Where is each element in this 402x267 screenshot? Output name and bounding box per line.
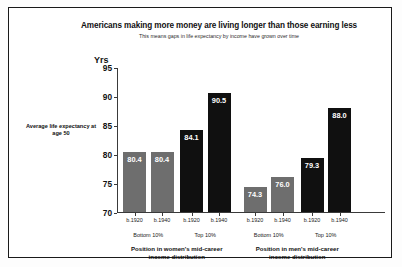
x-tick-mark	[219, 213, 220, 216]
subgroup-label: Bottom 10%	[254, 232, 284, 238]
y-tick-label: 80	[103, 150, 112, 160]
subgroup-label: Top 10%	[315, 232, 336, 238]
x-tick-label: b.1920	[126, 217, 143, 223]
group-axis-title: Position in men's mid-careerincome distr…	[256, 245, 339, 260]
chart-frame: Americans making more money are living l…	[8, 7, 392, 258]
plot-area: 707580859095 80.4b.192080.4b.194084.1b.1…	[117, 68, 385, 213]
x-tick-label: b.1920	[183, 217, 200, 223]
x-tick-mark	[312, 213, 313, 216]
x-tick-mark	[192, 213, 193, 216]
y-tick-label: 95	[103, 63, 112, 73]
bar: 80.4	[151, 152, 174, 212]
bar-value-label: 76.0	[271, 180, 294, 189]
bar-value-label: 84.1	[180, 133, 203, 142]
bar-value-label: 79.3	[301, 161, 324, 170]
x-tick-label: b.1940	[154, 217, 171, 223]
y-tick-mark	[114, 68, 118, 69]
bar: 90.5	[208, 93, 231, 212]
bar: 84.1	[180, 130, 203, 212]
bar-value-label: 88.0	[328, 111, 351, 120]
x-tick-mark	[162, 213, 163, 216]
x-tick-label: b.1920	[304, 217, 321, 223]
bar-value-label: 90.5	[208, 96, 231, 105]
y-tick-label: 70	[103, 208, 112, 218]
chart-figure: Americans making more money are living l…	[0, 0, 402, 267]
x-tick-label: b.1940	[211, 217, 228, 223]
side-annotation: Average life expectancy at age 50	[25, 123, 97, 138]
subgroup-label: Bottom 10%	[133, 232, 163, 238]
y-tick-mark	[114, 155, 118, 156]
bar: 79.3	[301, 158, 324, 212]
bar: 76.0	[271, 177, 294, 212]
x-tick-mark	[283, 213, 284, 216]
y-tick-mark	[114, 97, 118, 98]
x-tick-mark	[340, 213, 341, 216]
chart-subtitle: This means gaps in life expectancy by in…	[69, 33, 369, 40]
x-tick-mark	[255, 213, 256, 216]
y-tick-mark	[114, 213, 118, 214]
x-tick-label: b.1920	[247, 217, 264, 223]
y-axis-line	[117, 68, 118, 213]
y-tick-mark	[114, 126, 118, 127]
y-tick-mark	[114, 184, 118, 185]
y-tick-label: 75	[103, 179, 112, 189]
x-tick-mark	[135, 213, 136, 216]
chart-title: Americans making more money are living l…	[69, 21, 369, 31]
y-tick-label: 85	[103, 121, 112, 131]
subgroup-label: Top 10%	[195, 232, 216, 238]
bar: 80.4	[123, 152, 146, 212]
group-axis-title: Position in women's mid-careerincome dis…	[131, 245, 223, 260]
x-tick-label: b.1940	[331, 217, 348, 223]
bar-value-label: 74.3	[244, 190, 267, 199]
bar: 88.0	[328, 108, 351, 212]
y-tick-label: 90	[103, 92, 112, 102]
x-tick-label: b.1940	[274, 217, 291, 223]
x-axis-baseline	[117, 212, 385, 213]
bar-value-label: 80.4	[151, 155, 174, 164]
bar: 74.3	[244, 187, 267, 212]
bar-value-label: 80.4	[123, 155, 146, 164]
